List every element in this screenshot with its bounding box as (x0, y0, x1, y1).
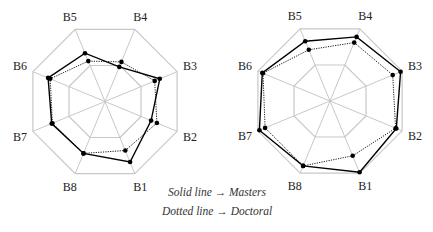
data-point-doctoral-b2 (393, 126, 398, 131)
data-point-doctoral-b6 (48, 77, 53, 82)
data-point-masters-b1 (128, 160, 133, 165)
data-point-masters-b2 (149, 118, 154, 123)
data-point-masters-b5 (303, 39, 308, 44)
data-point-doctoral-b3 (152, 79, 157, 84)
data-point-doctoral-b5 (86, 59, 91, 64)
axis-label-b6: B6 (238, 59, 252, 73)
data-point-masters-b3 (158, 77, 163, 82)
data-point-doctoral-b4 (352, 40, 357, 45)
axis-label-b1: B1 (133, 180, 147, 194)
series-masters-polygon (48, 53, 160, 162)
axis-label-b8: B8 (288, 179, 302, 193)
data-point-doctoral-b7 (50, 121, 55, 126)
data-point-doctoral-b4 (119, 60, 124, 65)
axis-label-b6: B6 (13, 59, 27, 73)
axis-label-b3: B3 (183, 59, 197, 73)
data-point-doctoral-b1 (123, 148, 128, 153)
axis-label-b8: B8 (63, 180, 77, 194)
radar-chart-right: B1B2B3B4B5B6B7B8 (238, 9, 422, 193)
data-point-doctoral-b8 (81, 151, 86, 156)
data-point-doctoral-b1 (350, 154, 355, 159)
legend-solid-masters: Solid line → Masters (168, 186, 266, 198)
axis-label-b1: B1 (358, 179, 372, 193)
radar-chart-left: B1B2B3B4B5B6B7B8 (13, 10, 197, 194)
data-point-doctoral-b3 (390, 73, 395, 78)
series-doctoral-polygon (263, 43, 396, 166)
data-point-masters-b1 (357, 170, 362, 175)
data-point-masters-b3 (398, 69, 403, 74)
axis-label-b5: B5 (63, 10, 77, 24)
axis-label-b3: B3 (408, 59, 422, 73)
axis-label-b2: B2 (183, 130, 197, 144)
legend-dotted-doctoral: Dotted line → Doctoral (162, 205, 272, 217)
data-point-doctoral-b7 (263, 126, 268, 131)
data-point-doctoral-b5 (307, 48, 312, 53)
axis-label-b4: B4 (358, 9, 372, 23)
data-point-masters-b4 (117, 65, 122, 70)
axis-label-b2: B2 (408, 129, 422, 143)
data-point-doctoral-b6 (261, 71, 266, 76)
axis-label-b7: B7 (238, 129, 252, 143)
data-point-masters-b4 (354, 35, 359, 40)
axis-label-b5: B5 (288, 9, 302, 23)
axis-label-b4: B4 (133, 10, 147, 24)
data-point-masters-b5 (83, 51, 88, 56)
series-masters-polygon (259, 37, 400, 172)
data-point-masters-b7 (257, 128, 262, 133)
data-point-doctoral-b8 (301, 164, 306, 169)
axis-label-b7: B7 (13, 130, 27, 144)
data-point-doctoral-b2 (155, 121, 160, 126)
